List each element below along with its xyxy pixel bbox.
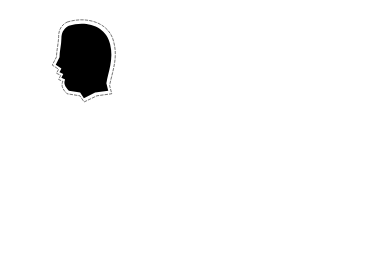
featured-black-head-icon (52, 20, 115, 102)
illustration-canvas (0, 0, 391, 270)
